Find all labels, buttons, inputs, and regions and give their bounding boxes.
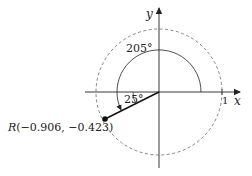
reference-angle-label: 25° bbox=[124, 93, 144, 106]
rotation-angle-label: 205° bbox=[126, 42, 153, 55]
point-r-label: R(−0.906, −0.423) bbox=[7, 121, 113, 134]
y-axis-label: y bbox=[145, 7, 153, 21]
unit-circle-diagram: y x 1 205° 25° R(−0.906, −0.423) bbox=[0, 0, 252, 176]
point-coords: (−0.906, −0.423) bbox=[16, 121, 113, 134]
x-axis-label: x bbox=[234, 94, 241, 108]
unit-tick-label: 1 bbox=[222, 95, 228, 106]
point-name: R bbox=[7, 121, 16, 134]
